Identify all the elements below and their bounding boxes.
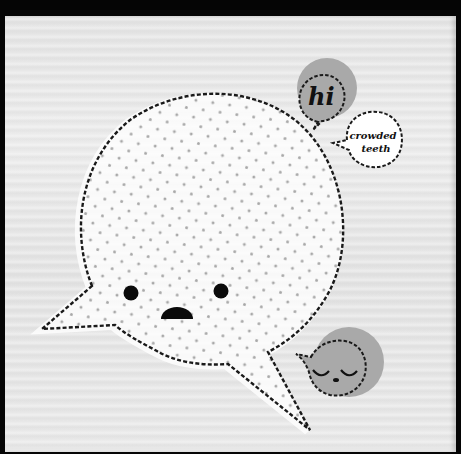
crowded-teeth-speech-bubble: crowded teeth (333, 112, 402, 167)
nose-icon (333, 378, 339, 382)
sleepy-speech-bubble (296, 327, 384, 397)
right-eye-icon (214, 284, 229, 299)
hi-text: hi (308, 82, 335, 111)
crowded-text: crowded (350, 130, 397, 141)
hi-speech-bubble: hi (297, 58, 357, 130)
left-eye-icon (124, 286, 139, 301)
main-speech-bubble (39, 94, 343, 432)
teeth-text: teeth (361, 143, 390, 154)
illustration: hi crowded teeth (0, 0, 461, 454)
